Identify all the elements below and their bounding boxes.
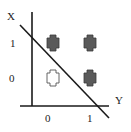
point-x1-y1-filled bbox=[84, 35, 96, 51]
vertical-tick-0: 0 bbox=[9, 72, 15, 84]
horizontal-tick-1: 1 bbox=[87, 112, 93, 124]
horizontal-axis-label: Y bbox=[115, 94, 123, 106]
horizontal-tick-0: 0 bbox=[45, 112, 51, 124]
point-x0-y1-filled bbox=[84, 70, 96, 86]
diagram-canvas: X Y 1 0 0 1 bbox=[0, 0, 131, 132]
point-x0-y0-outline bbox=[47, 70, 59, 86]
vertical-axis-label: X bbox=[7, 10, 15, 22]
point-x1-y0-filled bbox=[47, 35, 59, 51]
vertical-tick-1: 1 bbox=[10, 37, 16, 49]
